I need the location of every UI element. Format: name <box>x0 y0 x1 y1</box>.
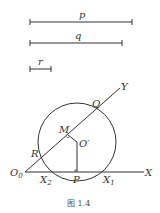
perpendicular-segments <box>68 135 77 172</box>
label-q-point: Q <box>92 98 100 109</box>
label-o0: O0 <box>10 167 23 180</box>
label-x1: X1 <box>102 174 115 187</box>
label-r-point: R <box>30 148 39 159</box>
label-y: Y <box>121 81 129 92</box>
label-o-prime: O′ <box>79 138 90 149</box>
label-r: r <box>38 56 44 67</box>
label-x: X <box>144 167 153 178</box>
geometry-figure: p q r Y Q M O′ R O0 X2 P X1 X 图 1.4 <box>0 0 160 213</box>
label-p: p <box>79 9 86 20</box>
label-m: M <box>58 124 70 135</box>
label-x2: X2 <box>39 174 52 187</box>
label-p-point: P <box>72 174 80 185</box>
figure-caption: 图 1.4 <box>67 199 90 208</box>
label-q: q <box>75 30 81 41</box>
ray-y <box>25 88 120 172</box>
